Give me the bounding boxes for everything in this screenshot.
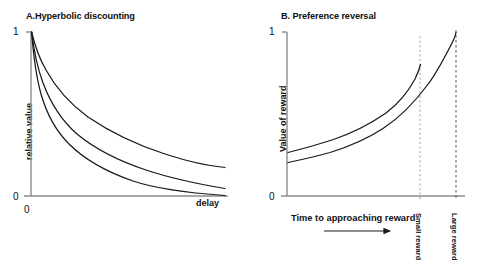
panel-a-curve-low-k xyxy=(32,32,225,168)
panel-hyperbolic-discounting: A.Hyperbolic discounting 1 0 0 relative … xyxy=(0,0,240,275)
panel-b-plot xyxy=(240,0,481,275)
panel-a-curve-high-k xyxy=(32,32,225,196)
panel-a-curve-medium-k xyxy=(32,32,225,189)
panel-a-plot xyxy=(0,0,240,275)
figure-container: A.Hyperbolic discounting 1 0 0 relative … xyxy=(0,0,481,275)
panel-b-curve-small-reward xyxy=(288,65,421,153)
panel-b-curve-large-reward xyxy=(288,33,456,163)
panel-preference-reversal: B. Preference reversal 1 0 Value of rewa… xyxy=(240,0,481,275)
